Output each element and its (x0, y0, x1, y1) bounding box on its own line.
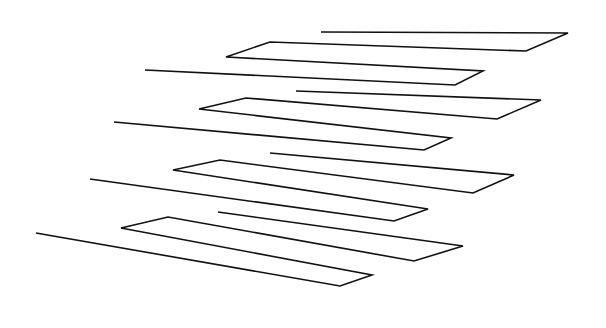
zigzag-ribbon-drawing (0, 0, 606, 328)
ribbon-fold-1 (145, 32, 568, 85)
ribbon-fold-4 (36, 212, 463, 286)
ribbon-fold-3 (90, 153, 514, 221)
ribbon-fold-2 (114, 91, 541, 150)
